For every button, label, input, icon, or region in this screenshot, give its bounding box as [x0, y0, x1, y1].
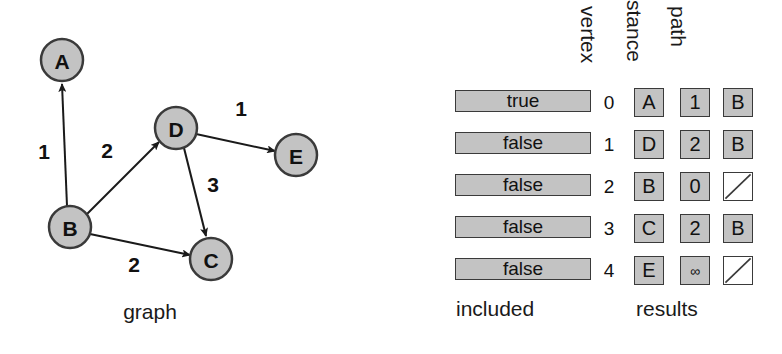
graph-panel: A B C D E 1 2 2 3 1 graph — [0, 0, 420, 354]
path-cell-row-3[interactable]: B — [723, 214, 753, 243]
edge-b-d — [87, 142, 159, 214]
row-index-1: 1 — [600, 134, 618, 156]
column-header-path: path — [666, 6, 690, 47]
graph-nodes — [41, 39, 317, 280]
edge-weight-b-c: 2 — [128, 253, 140, 277]
edge-d-c — [184, 148, 206, 236]
included-caption: included — [456, 297, 534, 321]
column-header-distance: stance — [622, 0, 646, 62]
distance-cell-row-2[interactable]: 0 — [680, 172, 710, 201]
row-index-3: 3 — [600, 218, 618, 240]
row-index-4: 4 — [600, 260, 618, 282]
path-cell-row-2[interactable] — [723, 172, 753, 201]
distance-cell-row-0[interactable]: 1 — [680, 88, 710, 117]
empty-slash-icon — [724, 173, 752, 200]
edge-weight-d-e: 1 — [235, 97, 247, 121]
row-index-0: 0 — [600, 92, 618, 114]
empty-slash-icon — [724, 257, 752, 284]
distance-cell-row-3[interactable]: 2 — [680, 214, 710, 243]
path-cell-row-0[interactable]: B — [723, 88, 753, 117]
included-bar-row-4[interactable]: false — [455, 258, 591, 280]
included-bar-row-2[interactable]: false — [455, 174, 591, 196]
distance-cell-row-4[interactable]: ∞ — [680, 256, 710, 285]
edge-d-e — [196, 134, 275, 151]
results-caption: results — [636, 297, 698, 321]
distance-cell-row-1[interactable]: 2 — [680, 130, 710, 159]
graph-node-c[interactable] — [190, 238, 232, 280]
path-cell-row-1[interactable]: B — [723, 130, 753, 159]
edge-b-a — [62, 84, 67, 206]
vertex-cell-row-1[interactable]: D — [634, 130, 664, 159]
vertex-cell-row-0[interactable]: A — [634, 88, 664, 117]
graph-node-a[interactable] — [41, 39, 83, 81]
graph-node-e[interactable] — [275, 134, 317, 176]
included-bar-row-1[interactable]: false — [455, 132, 591, 154]
column-header-vertex: vertex — [576, 6, 600, 63]
vertex-cell-row-3[interactable]: C — [634, 214, 664, 243]
figure-canvas: A B C D E 1 2 2 3 1 graph vertex stance … — [0, 0, 782, 354]
graph-node-d[interactable] — [155, 107, 197, 149]
included-bar-row-0[interactable]: true — [455, 90, 591, 112]
included-bar-row-3[interactable]: false — [455, 216, 591, 238]
edge-b-c — [90, 234, 190, 255]
vertex-cell-row-2[interactable]: B — [634, 172, 664, 201]
results-table-panel: vertex stance path true 0 A 1 B false 1 … — [440, 0, 782, 354]
edge-weight-b-d: 2 — [101, 139, 113, 163]
graph-node-b[interactable] — [49, 206, 91, 248]
row-index-2: 2 — [600, 176, 618, 198]
edge-weight-b-a: 1 — [38, 140, 50, 164]
vertex-cell-row-4[interactable]: E — [634, 256, 664, 285]
path-cell-row-4[interactable] — [723, 256, 753, 285]
graph-caption: graph — [123, 300, 177, 324]
edge-weight-d-c: 3 — [207, 173, 219, 197]
